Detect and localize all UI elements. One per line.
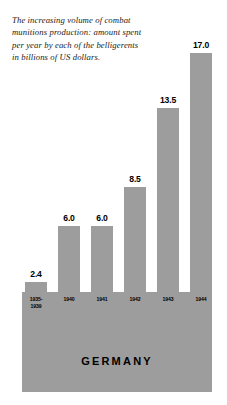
bar-column: 2.4 xyxy=(25,28,47,320)
x-axis-label: 1940 xyxy=(53,296,85,303)
bar-value-label: 17.0 xyxy=(193,40,209,50)
x-axis-labels: 1935-193919401941194219431944 xyxy=(22,296,212,322)
bar-column: 17.0 xyxy=(190,28,212,320)
bar-value-label: 2.4 xyxy=(30,269,41,279)
bar-column: 13.5 xyxy=(157,28,179,320)
bar-value-label: 13.5 xyxy=(160,95,176,105)
x-axis-label: 1942 xyxy=(119,296,151,303)
bar-value-label: 8.5 xyxy=(129,174,140,184)
bar-value-label: 6.0 xyxy=(96,213,107,223)
bar-column: 6.0 xyxy=(58,28,80,320)
x-axis-label: 1935-1939 xyxy=(20,296,52,309)
bar xyxy=(157,108,179,320)
bar xyxy=(190,53,212,320)
bar-series: 2.46.06.08.513.517.0 xyxy=(22,0,212,320)
bar-value-label: 6.0 xyxy=(63,213,74,223)
x-axis-label: 1944 xyxy=(185,296,217,303)
country-title: GERMANY xyxy=(22,355,212,367)
x-axis-label: 1943 xyxy=(152,296,184,303)
bar-column: 6.0 xyxy=(91,28,113,320)
bar-column: 8.5 xyxy=(124,28,146,320)
x-axis-label: 1941 xyxy=(86,296,118,303)
